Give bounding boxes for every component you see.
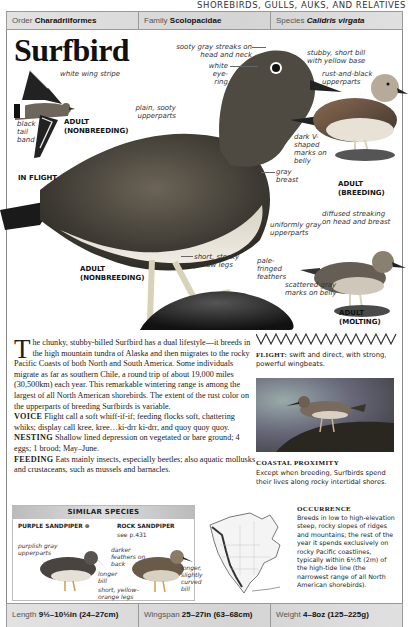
label-black-tail-band: black tail band bbox=[17, 120, 41, 144]
label-rust-black-upperparts: rust-and-black upperparts bbox=[322, 70, 378, 86]
species-cell: Species Calidris virgata bbox=[271, 12, 402, 29]
wingspan-value: 25–27in (63–68cm) bbox=[182, 610, 253, 619]
in-flight-bird bbox=[14, 70, 75, 158]
weight-cell: Weight 4–8oz (125–225g) bbox=[271, 604, 402, 627]
caption-main-adult-nonbreeding: ADULT (NONBREEDING) bbox=[80, 265, 140, 283]
measurements-bar: Length 9½–10½in (24–27cm) Wingspan 25–27… bbox=[6, 603, 403, 627]
label-dark-v-marks: dark V-shaped marks on belly bbox=[294, 133, 330, 165]
nesting-label: NESTING bbox=[14, 433, 53, 442]
wingspan-cell: Wingspan 25–27in (63–68cm) bbox=[139, 604, 271, 627]
label-diffused-streaking: diffused streaking on head and breast bbox=[322, 210, 392, 226]
occurrence-title: OCCURRENCE bbox=[297, 505, 351, 513]
order-label: Order bbox=[12, 16, 32, 25]
running-head: SHOREBIRDS, GULLS, AUKS, AND RELATIVES bbox=[197, 0, 406, 10]
leader-line bbox=[181, 256, 193, 257]
species-label: Species bbox=[276, 16, 304, 25]
leader-line bbox=[261, 172, 275, 173]
family-value: Scolopacidae bbox=[170, 16, 222, 25]
length-cell: Length 9½–10½in (24–27cm) bbox=[7, 604, 139, 627]
voice-text: Flight call a soft whiff-if-if; feeding … bbox=[14, 412, 235, 432]
label-longer-bill: longer bill bbox=[98, 570, 120, 584]
label-scattered-gray-marks: scattered gray marks on belly bbox=[285, 281, 337, 297]
caption-in-flight-adult: ADULT (NONBREEDING) bbox=[64, 118, 124, 136]
label-plain-sooty-upperparts: plain, sooty upperparts bbox=[128, 104, 176, 120]
weight-label: Weight bbox=[276, 610, 301, 619]
wingspan-label: Wingspan bbox=[144, 610, 180, 619]
similar-species-box: SIMILAR SPECIES PURPLE SANDPIPER ⊛ ROCK … bbox=[12, 505, 195, 601]
leader-line bbox=[252, 47, 266, 48]
photo-caption: Except when breeding, Surfbirds spend th… bbox=[256, 469, 396, 486]
occurrence-text: Breeds in low to high-elevation steep, r… bbox=[297, 514, 397, 590]
label-gray-breast: gray breast bbox=[276, 168, 304, 184]
species-value: Calidris virgata bbox=[307, 16, 365, 25]
dropcap: T bbox=[14, 339, 31, 359]
length-label: Length bbox=[12, 610, 36, 619]
feeding-paragraph: FEEDING Eats mainly insects, especially … bbox=[14, 455, 256, 476]
photo-bird-image bbox=[256, 378, 394, 452]
nesting-paragraph: NESTING Shallow lined depression on vege… bbox=[14, 433, 256, 454]
label-pale-fringed-feathers: pale-fringed feathers bbox=[257, 257, 297, 281]
flight-pattern-zigzag-icon bbox=[256, 332, 398, 346]
caption-breeding: ADULT (BREEDING) bbox=[338, 180, 388, 198]
intro-text: he chunky, stubby-billed Surfbird has a … bbox=[14, 338, 250, 411]
label-stubby-short-bill: stubby, short bill with yellow base bbox=[307, 49, 369, 65]
weight-value: 4–8oz (125–225g) bbox=[303, 610, 369, 619]
label-white-wing-stripe: white wing stripe bbox=[60, 70, 120, 78]
order-value: Charadriiformes bbox=[35, 16, 97, 25]
voice-paragraph: VOICE Flight call a soft whiff-if-if; fe… bbox=[14, 412, 256, 433]
label-uniformly-gray-upperparts: uniformly gray upperparts bbox=[270, 221, 324, 237]
species-description: The chunky, stubby-billed Surfbird has a… bbox=[14, 338, 256, 476]
taxonomy-bar: Order Charadriiformes Family Scolopacida… bbox=[6, 11, 403, 30]
intro-paragraph: The chunky, stubby-billed Surfbird has a… bbox=[14, 338, 256, 412]
feeding-label: FEEDING bbox=[14, 455, 53, 464]
voice-label: VOICE bbox=[14, 412, 42, 421]
length-value: 9½–10½in (24–27cm) bbox=[39, 610, 119, 619]
label-white-eye-ring: white eye-ring bbox=[200, 62, 228, 86]
family-label: Family bbox=[144, 16, 168, 25]
family-cell: Family Scolopacidae bbox=[139, 12, 271, 29]
range-map bbox=[200, 505, 296, 597]
flight-label: FLIGHT: bbox=[256, 351, 287, 359]
label-sooty-gray-streaks: sooty gray streaks on head and neck bbox=[172, 43, 252, 59]
label-short-stocky-legs: short, stocky yellow legs bbox=[194, 253, 244, 269]
caption-molting: ADULT (MOLTING) bbox=[339, 309, 389, 327]
caption-in-flight: IN FLIGHT bbox=[18, 174, 57, 183]
order-cell: Order Charadriiformes bbox=[7, 12, 139, 29]
label-darker-feathers: darker feathers on back bbox=[111, 546, 155, 567]
flight-description: FLIGHT: swift and direct, with strong, p… bbox=[256, 351, 396, 369]
label-longer-curved-bill: longer, slightly curved bill bbox=[181, 564, 199, 592]
label-purplish-gray-upperparts: purplish gray upperparts bbox=[18, 542, 58, 556]
photo-caption-title: COASTAL PROXIMITY bbox=[256, 459, 339, 467]
label-yellow-orange-legs: short, yellow-orange legs bbox=[98, 586, 144, 600]
leader-line bbox=[230, 66, 258, 67]
coastal-photo bbox=[256, 378, 394, 452]
